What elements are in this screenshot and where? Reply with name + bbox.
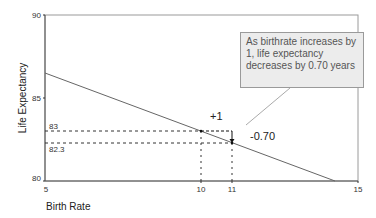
x-tick-15: 15 bbox=[354, 185, 363, 194]
y-axis-title: Life Expectancy bbox=[17, 63, 28, 134]
x-tick-5: 5 bbox=[44, 185, 49, 194]
callout-box: As birthrate increases by 1, life expect… bbox=[240, 32, 364, 88]
y-ref-83: 83 bbox=[49, 122, 58, 131]
rise-label: -0.70 bbox=[250, 130, 275, 142]
regression-line bbox=[45, 73, 335, 181]
reference-lines bbox=[45, 131, 232, 181]
x-tick-10: 10 bbox=[197, 185, 206, 194]
y-tick-80: 80 bbox=[32, 174, 41, 183]
y-tick-85: 85 bbox=[32, 94, 41, 103]
x-tick-11: 11 bbox=[228, 185, 237, 194]
y-tick-90: 90 bbox=[32, 11, 41, 20]
y-ref-82-3: 82.3 bbox=[49, 145, 65, 154]
x-axis-title: Birth Rate bbox=[46, 201, 91, 212]
run-label: +1 bbox=[210, 110, 223, 122]
callout-pointer bbox=[246, 88, 290, 125]
